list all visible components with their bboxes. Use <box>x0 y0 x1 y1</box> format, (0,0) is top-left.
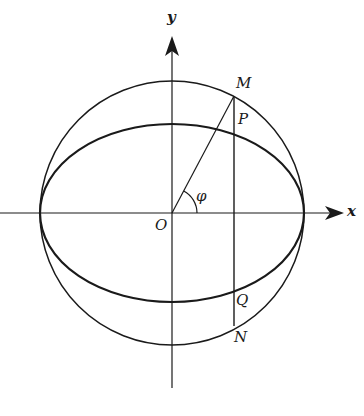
y-axis-label: y <box>167 10 176 25</box>
x-axis-label: x <box>347 204 356 219</box>
origin-label: O <box>155 218 167 233</box>
ellipse-circle-diagram <box>0 0 364 416</box>
point-Q-label: Q <box>236 293 248 308</box>
angle-label: φ <box>196 189 207 204</box>
angle-arc-phi <box>184 191 197 213</box>
point-P-label: P <box>238 112 248 127</box>
point-N-label: N <box>234 330 247 345</box>
point-M-label: M <box>236 76 251 91</box>
